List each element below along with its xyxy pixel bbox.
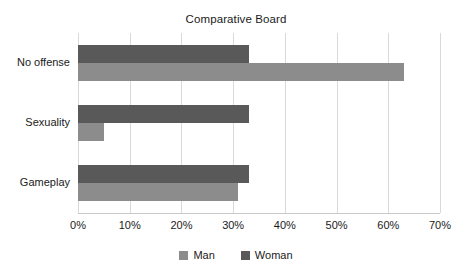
x-tick-label: 40% xyxy=(265,219,305,231)
x-tick-label: 10% xyxy=(110,219,150,231)
x-tick-label: 20% xyxy=(161,219,201,231)
comparative-board-chart: Comparative Board No offenseSexualityGam… xyxy=(0,0,472,274)
chart-title: Comparative Board xyxy=(0,13,472,25)
x-tick-label: 70% xyxy=(420,219,460,231)
legend-swatch-icon xyxy=(179,251,188,260)
category-label: Gameplay xyxy=(0,176,70,188)
x-tick-label: 0% xyxy=(58,219,98,231)
bar-woman[interactable] xyxy=(78,105,249,123)
bar-woman[interactable] xyxy=(78,45,249,63)
bar-man[interactable] xyxy=(78,183,238,201)
x-tick-label: 60% xyxy=(368,219,408,231)
bar-group xyxy=(78,105,440,141)
bar-group xyxy=(78,45,440,81)
chart-legend: ManWoman xyxy=(0,249,472,261)
gridline-70pct xyxy=(440,33,441,213)
legend-item-man[interactable]: Man xyxy=(179,249,214,261)
bar-man[interactable] xyxy=(78,123,104,141)
category-axis-labels: No offenseSexualityGameplay xyxy=(0,33,72,213)
category-label: No offense xyxy=(0,56,70,68)
x-tick-label: 50% xyxy=(317,219,357,231)
bar-group xyxy=(78,165,440,201)
legend-label: Man xyxy=(193,249,214,261)
legend-item-woman[interactable]: Woman xyxy=(241,249,293,261)
plot-area xyxy=(78,33,440,213)
x-tick-label: 30% xyxy=(213,219,253,231)
legend-swatch-icon xyxy=(241,251,250,260)
x-axis-tick-labels: 0%10%20%30%40%50%60%70% xyxy=(0,219,472,235)
x-axis-line xyxy=(78,213,440,214)
bar-woman[interactable] xyxy=(78,165,249,183)
legend-label: Woman xyxy=(255,249,293,261)
bar-man[interactable] xyxy=(78,63,404,81)
category-label: Sexuality xyxy=(0,116,70,128)
